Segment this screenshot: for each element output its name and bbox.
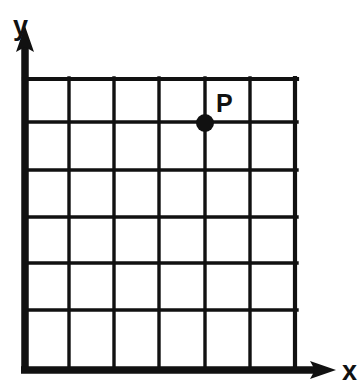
y-axis-label: y (13, 11, 28, 41)
figure-canvas: P y x (0, 0, 362, 389)
coordinate-grid-figure: P y x (0, 0, 362, 389)
point-p-marker (196, 114, 214, 132)
x-axis-label: x (342, 356, 357, 386)
background (0, 0, 362, 389)
point-p-label: P (216, 89, 233, 117)
